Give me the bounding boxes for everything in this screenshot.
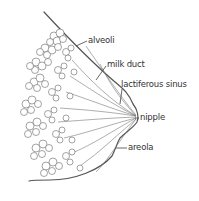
label-nipple: nipple xyxy=(140,113,165,122)
label-milk-duct: milk duct xyxy=(107,60,145,69)
label-alveoli: alveoli xyxy=(88,36,114,45)
breast-anatomy-diagram: alveoli milk duct lactiferous sinus nipp… xyxy=(0,0,199,201)
leader-alveoli xyxy=(76,41,87,46)
label-areola: areola xyxy=(128,143,153,152)
diagram-illustration xyxy=(0,0,199,201)
label-lactiferous-sinus: lactiferous sinus xyxy=(121,80,187,89)
